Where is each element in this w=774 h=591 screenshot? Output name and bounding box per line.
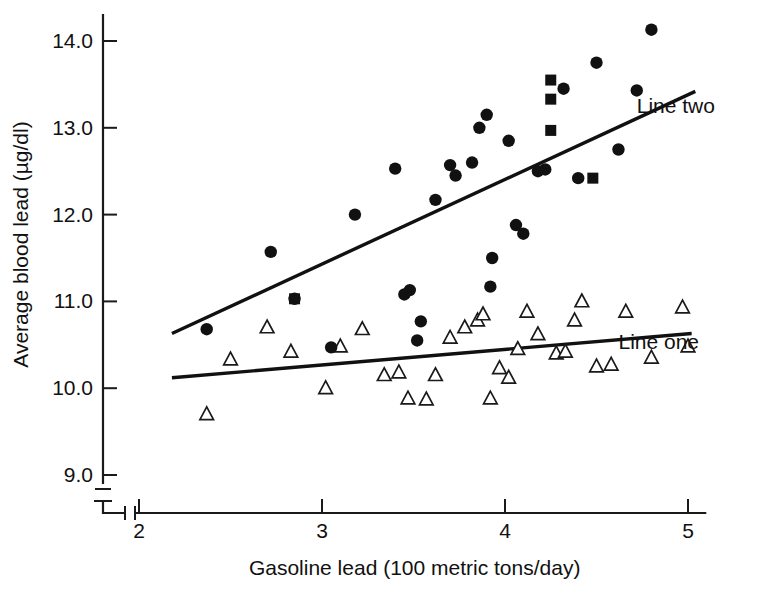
data-point-circle [486,252,498,264]
data-point-circle [484,280,496,292]
data-point-triangle [443,330,457,343]
data-point-triangle [200,407,214,420]
series-label-line-one: Line one [618,330,699,353]
data-point-triangle [604,357,618,370]
y-axis-tick-label: 9.0 [64,463,93,486]
regression-line [172,91,695,333]
y-axis-title: Average blood lead (µg/dl) [9,121,32,367]
data-point-triangle [377,368,391,381]
data-point-triangle [676,300,690,313]
regression-line [172,334,692,378]
data-point-triangle [420,392,434,405]
y-axis-tick-label: 10.0 [52,376,93,399]
data-point-circle [645,24,657,36]
y-axis-tick-label: 13.0 [52,116,93,139]
data-point-circle [429,194,441,206]
y-axis-tick-label: 12.0 [52,203,93,226]
data-point-circle [466,156,478,168]
data-point-square [545,94,556,105]
chart-container: 9.010.011.012.013.014.02345Gasoline lead… [0,0,774,591]
data-point-circle [201,323,213,335]
x-axis-tick-label: 5 [682,519,694,542]
data-point-square [289,293,300,304]
data-point-triangle [224,352,238,365]
data-point-circle [557,83,569,95]
data-point-circle [349,208,361,220]
data-point-circle [449,169,461,181]
data-point-circle [389,162,401,174]
y-axis-tick-label: 14.0 [52,29,93,52]
data-point-circle [481,109,493,121]
data-point-circle [612,143,624,155]
data-point-square [545,75,556,86]
axis-origin-elbow [103,501,125,513]
data-point-triangle [319,381,333,394]
data-point-circle [502,135,514,147]
data-point-circle [404,284,416,296]
data-point-circle [415,315,427,327]
data-point-triangle [484,391,498,404]
x-axis-tick-label: 4 [499,519,511,542]
data-point-triangle [284,344,298,357]
data-point-circle [265,246,277,258]
data-point-circle [411,334,423,346]
data-point-square [545,125,556,136]
x-axis-title: Gasoline lead (100 metric tons/day) [249,556,581,579]
data-point-triangle [619,304,633,317]
data-point-triangle [575,294,589,307]
data-point-triangle [520,304,534,317]
data-point-circle [590,57,602,69]
series-label-line-two: Line two [637,94,715,117]
data-point-circle [517,227,529,239]
data-point-triangle [401,391,415,404]
x-axis-tick-label: 3 [316,519,328,542]
data-point-triangle [493,361,507,374]
y-axis-tick-label: 11.0 [54,289,93,312]
x-axis-tick-label: 2 [133,519,145,542]
data-point-triangle [429,368,443,381]
scatter-plot: 9.010.011.012.013.014.02345Gasoline lead… [0,0,774,591]
data-point-circle [572,172,584,184]
data-point-circle [473,122,485,134]
data-point-triangle [260,320,274,333]
data-point-triangle [568,313,582,326]
data-point-triangle [531,327,545,340]
data-point-triangle [590,359,604,372]
data-point-triangle [392,365,406,378]
data-point-triangle [355,322,369,335]
data-point-square [587,173,598,184]
data-point-circle [325,341,337,353]
data-point-circle [539,163,551,175]
